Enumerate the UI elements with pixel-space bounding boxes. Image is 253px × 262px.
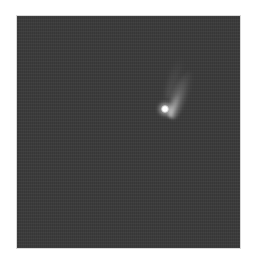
night-sky-photo xyxy=(16,15,241,249)
image-frame xyxy=(0,0,253,262)
comet-nucleus xyxy=(161,105,169,113)
